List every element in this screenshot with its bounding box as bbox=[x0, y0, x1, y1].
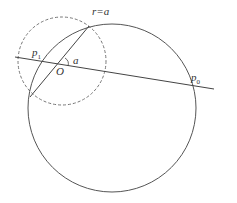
p0-label: p0 bbox=[191, 72, 200, 86]
secant-line bbox=[15, 57, 214, 89]
large-circle bbox=[28, 24, 196, 192]
diagram-svg bbox=[0, 0, 237, 203]
radius-label: r=a bbox=[92, 6, 109, 17]
p1-subscript: 1 bbox=[38, 53, 42, 61]
chord-line bbox=[30, 26, 89, 97]
angle-label: a bbox=[73, 55, 79, 66]
origin-label: O bbox=[56, 66, 64, 77]
geometry-diagram: r=a p1 O a p0 bbox=[0, 0, 237, 203]
p1-label: p1 bbox=[32, 47, 41, 61]
p0-subscript: 0 bbox=[197, 78, 201, 86]
